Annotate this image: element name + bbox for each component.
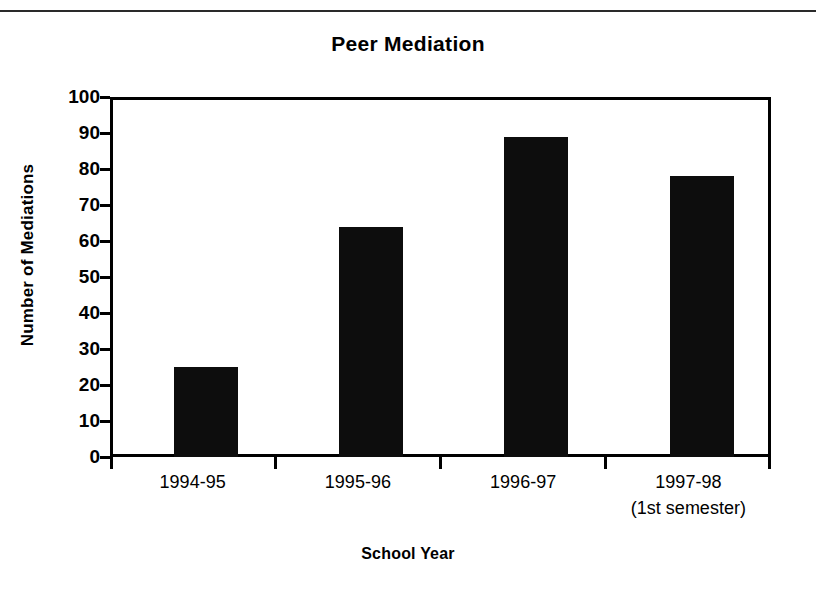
- y-tick-label: 100: [50, 86, 100, 108]
- x-tick-mark: [768, 457, 771, 469]
- x-tick-label: 1994-95: [98, 469, 288, 495]
- bar: [504, 137, 568, 457]
- x-tick-mark: [110, 457, 113, 469]
- x-tick-mark: [439, 457, 442, 469]
- y-tick-mark: [100, 132, 110, 135]
- y-tick-label: 30: [50, 338, 100, 360]
- y-tick-label: 50: [50, 266, 100, 288]
- y-tick-label: 20: [50, 374, 100, 396]
- chart-title: Peer Mediation: [0, 32, 816, 56]
- y-tick-mark: [100, 420, 110, 423]
- bar: [339, 227, 403, 457]
- y-tick-label: 60: [50, 230, 100, 252]
- y-axis-title: Number of Mediations: [18, 0, 38, 535]
- y-tick-mark: [100, 204, 110, 207]
- x-tick-label: 1995-96: [263, 469, 453, 495]
- x-tick-mark: [274, 457, 277, 469]
- x-axis-tick-labels: 1994-951995-961996-971997-98(1st semeste…: [110, 469, 771, 529]
- y-tick-label: 40: [50, 302, 100, 324]
- x-tick-mark: [604, 457, 607, 469]
- x-tick-label-text: 1995-96: [325, 472, 391, 492]
- peer-mediation-bar-chart: Peer Mediation Number of Mediations 0102…: [0, 0, 816, 601]
- x-tick-label: 1997-98(1st semester): [593, 469, 783, 521]
- x-tick-label-text: 1994-95: [160, 472, 226, 492]
- y-tick-label: 0: [50, 446, 100, 468]
- bar: [174, 367, 238, 457]
- y-tick-mark: [100, 168, 110, 171]
- y-tick-label: 10: [50, 410, 100, 432]
- y-tick-mark: [100, 456, 110, 459]
- y-tick-mark: [100, 96, 110, 99]
- x-axis-title: School Year: [0, 545, 816, 563]
- plot-area: [110, 97, 771, 457]
- y-tick-mark: [100, 276, 110, 279]
- x-tick-label-text: 1997-98: [655, 472, 721, 492]
- y-tick-mark: [100, 312, 110, 315]
- y-tick-label: 70: [50, 194, 100, 216]
- y-tick-mark: [100, 384, 110, 387]
- bar: [670, 176, 734, 457]
- y-tick-mark: [100, 348, 110, 351]
- y-tick-label: 90: [50, 122, 100, 144]
- y-tick-label: 80: [50, 158, 100, 180]
- x-tick-label-text: 1996-97: [490, 472, 556, 492]
- x-tick-label: 1996-97: [428, 469, 618, 495]
- y-axis-tick-labels: 0102030405060708090100: [44, 97, 100, 457]
- x-tick-sublabel: (1st semester): [593, 495, 783, 521]
- y-tick-mark: [100, 240, 110, 243]
